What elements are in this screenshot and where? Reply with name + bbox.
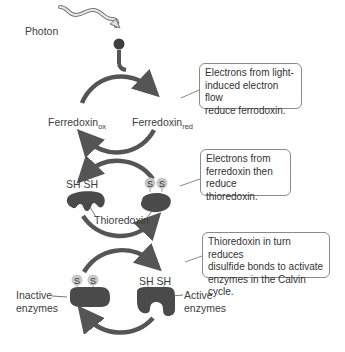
ox-subscript: ox bbox=[98, 122, 106, 131]
callout-ferredoxin: Electrons from light- induced electron f… bbox=[199, 63, 302, 109]
photon-wave-icon bbox=[60, 7, 120, 28]
thioredoxin-sh-groups: SH SH bbox=[66, 178, 98, 190]
callout-line: reduce thioredoxin. bbox=[206, 178, 285, 203]
callout-line: Thioredoxin in turn reduces bbox=[208, 236, 324, 261]
svg-text:S: S bbox=[90, 276, 96, 286]
red-subscript: red bbox=[182, 122, 193, 131]
ferredoxin-red-text: Ferredoxin bbox=[132, 116, 182, 128]
ferredoxin-red-label: Ferredoxinred bbox=[132, 116, 193, 133]
inactive-label-line: enzymes bbox=[16, 302, 58, 315]
callout-line: disulfide bonds to activate bbox=[208, 261, 324, 274]
callout-calvin: Thioredoxin in turn reduces disulfide bo… bbox=[202, 232, 330, 278]
active-enzyme-protein bbox=[137, 282, 183, 316]
inactive-label-line: Inactive bbox=[16, 289, 58, 302]
ferredoxin-ox-label: Ferredoxinox bbox=[48, 116, 106, 133]
thioredoxin-oxidized-protein: S S bbox=[141, 178, 171, 220]
svg-text:S: S bbox=[159, 179, 165, 189]
ferredoxin-cycle-arrows bbox=[82, 76, 154, 152]
callout-thioredoxin: Electrons from ferredoxin then reduce th… bbox=[200, 149, 291, 196]
callout-line: Electrons from light- bbox=[205, 67, 296, 80]
callout-line: enzymes in the Calvin cycle. bbox=[208, 274, 324, 299]
callout-line: induced electron flow bbox=[205, 80, 296, 105]
svg-text:S: S bbox=[147, 179, 153, 189]
inactive-enzyme-protein: S S bbox=[52, 275, 110, 308]
electron-icon bbox=[114, 39, 127, 71]
thioredoxin-label: Thioredoxin bbox=[94, 214, 149, 226]
callout-line: Electrons from bbox=[206, 153, 285, 166]
callout-line: ferredoxin then bbox=[206, 166, 285, 179]
svg-text:S: S bbox=[74, 276, 80, 286]
photon-label: Photon bbox=[25, 25, 58, 37]
inactive-enzymes-label: Inactive enzymes bbox=[16, 289, 58, 315]
callout-line: reduce ferrodoxin. bbox=[205, 105, 296, 118]
active-enzyme-sh-groups: SH SH bbox=[139, 275, 171, 287]
active-label-line: enzymes bbox=[184, 302, 226, 315]
ferredoxin-ox-text: Ferredoxin bbox=[48, 116, 98, 128]
